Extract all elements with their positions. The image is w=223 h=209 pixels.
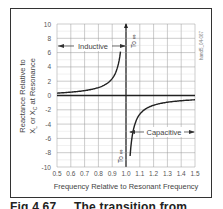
- svg-text:0.7: 0.7: [80, 170, 89, 177]
- svg-text:-8: -8: [45, 149, 51, 156]
- svg-text:1.0: 1.0: [121, 170, 130, 177]
- svg-text:8: 8: [47, 35, 51, 42]
- svg-text:-2: -2: [45, 106, 51, 113]
- svg-text:0.8: 0.8: [94, 170, 103, 177]
- arrow-left-icon: [58, 44, 64, 48]
- svg-text:10: 10: [44, 21, 52, 28]
- figure-caption: Fig 4.67 The transition from: [10, 200, 187, 209]
- svg-text:1.2: 1.2: [149, 170, 158, 177]
- inductive-label: Inductive: [78, 42, 108, 51]
- to-infinity-bottom-label: To ∞: [117, 149, 124, 163]
- inductive-annotation: Inductive: [58, 41, 126, 51]
- svg-text:-10: -10: [42, 164, 52, 171]
- svg-text:0.6: 0.6: [66, 170, 75, 177]
- svg-text:1.3: 1.3: [163, 170, 172, 177]
- caption-text: The transition from: [74, 200, 187, 209]
- svg-text:1.5: 1.5: [190, 170, 199, 177]
- svg-text:0: 0: [47, 92, 51, 99]
- inductive-curve: [57, 52, 121, 93]
- y-axis-title-line2: XL or XC at Resonance: [28, 58, 38, 134]
- svg-text:6: 6: [47, 49, 51, 56]
- svg-text:1.4: 1.4: [177, 170, 186, 177]
- svg-text:1.1: 1.1: [135, 170, 144, 177]
- y-axis-title-line1: Reactance Relative to: [18, 59, 27, 132]
- x-axis-title: Frequency Relative to Resonant Frequency: [54, 182, 199, 191]
- svg-text:-4: -4: [45, 121, 51, 128]
- figure-id: hand5_04-067: [199, 30, 204, 60]
- to-infinity-top-label: To ∞: [130, 34, 137, 48]
- capacitive-label: Capacitive: [146, 128, 181, 137]
- svg-text:2: 2: [47, 78, 51, 85]
- capacitive-annotation: Capacitive: [129, 127, 195, 137]
- svg-text:0.5: 0.5: [52, 170, 61, 177]
- svg-text:4: 4: [47, 63, 51, 70]
- arrow-right-icon: [120, 44, 126, 48]
- caption-fig-number: Fig 4.67: [10, 200, 56, 209]
- arrow-right-icon: [189, 130, 195, 134]
- reactance-chart: 0.50.60.70.80.91.01.11.21.31.41.51086420…: [0, 0, 223, 209]
- svg-text:0.9: 0.9: [108, 170, 117, 177]
- svg-text:-6: -6: [45, 135, 51, 142]
